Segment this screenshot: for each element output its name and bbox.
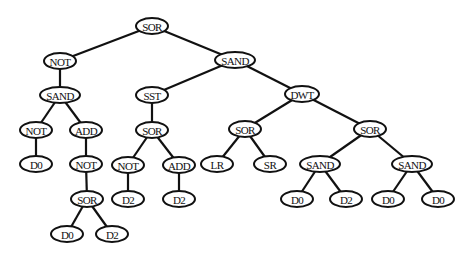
tree-node-sand: SAND xyxy=(392,156,432,172)
node-label: SOR xyxy=(142,125,163,137)
tree-node-sor: SOR xyxy=(136,18,168,34)
tree-node-d2: D2 xyxy=(96,226,128,242)
node-label: SAND xyxy=(221,55,249,67)
node-label: D0 xyxy=(291,194,304,206)
node-label: SAND xyxy=(46,90,74,102)
node-label: ADD xyxy=(168,160,191,172)
tree-node-not: NOT xyxy=(112,157,144,173)
node-label: SOR xyxy=(142,21,163,33)
node-label: D2 xyxy=(173,194,185,206)
node-label: D2 xyxy=(106,229,118,241)
node-label: SR xyxy=(264,159,278,171)
tree-node-sor: SOR xyxy=(354,121,386,137)
tree-node-d2: D2 xyxy=(112,191,144,207)
node-label: NOT xyxy=(76,159,98,171)
node-label: D2 xyxy=(122,194,134,206)
tree-node-not: NOT xyxy=(44,53,76,69)
tree-node-not: NOT xyxy=(70,156,102,172)
node-label: NOT xyxy=(118,160,140,172)
tree-node-d0: D0 xyxy=(281,191,313,207)
tree-node-sst: SST xyxy=(136,87,168,103)
tree-node-sr: SR xyxy=(254,156,286,172)
program-tree-diagram: SORNOTSANDSANDNOTADDD0NOTSORD0D2SSTSORNO… xyxy=(0,0,475,258)
tree-node-sand: SAND xyxy=(300,156,340,172)
node-label: DWT xyxy=(290,89,314,101)
node-label: ADD xyxy=(75,125,98,137)
tree-node-d2: D2 xyxy=(163,191,195,207)
tree-node-lr: LR xyxy=(201,156,233,172)
tree-node-sor: SOR xyxy=(136,122,168,138)
tree-node-sor: SOR xyxy=(229,121,261,137)
tree-node-sand: SAND xyxy=(40,87,80,103)
tree-node-d2: D2 xyxy=(330,191,362,207)
node-label: SOR xyxy=(235,124,256,136)
node-label: D0 xyxy=(61,229,74,241)
node-label: SAND xyxy=(398,159,426,171)
tree-node-d0: D0 xyxy=(51,226,83,242)
node-label: D0 xyxy=(382,194,395,206)
node-label: NOT xyxy=(50,56,72,68)
tree-node-d0: D0 xyxy=(20,156,52,172)
node-label: NOT xyxy=(26,125,48,137)
node-label: D2 xyxy=(340,194,352,206)
tree-node-sand: SAND xyxy=(215,52,255,68)
tree-node-d0: D0 xyxy=(422,191,454,207)
node-label: D0 xyxy=(30,159,43,171)
node-label: SOR xyxy=(360,124,381,136)
tree-node-dwt: DWT xyxy=(285,86,319,102)
node-label: SAND xyxy=(306,159,334,171)
tree-node-d0: D0 xyxy=(372,191,404,207)
tree-node-add: ADD xyxy=(70,122,102,138)
node-label: D0 xyxy=(432,194,445,206)
node-label: SST xyxy=(143,90,161,102)
tree-node-add: ADD xyxy=(163,157,195,173)
node-label: SOR xyxy=(77,194,98,206)
tree-node-not: NOT xyxy=(20,122,52,138)
tree-node-sor: SOR xyxy=(71,191,103,207)
node-label: LR xyxy=(211,159,225,171)
